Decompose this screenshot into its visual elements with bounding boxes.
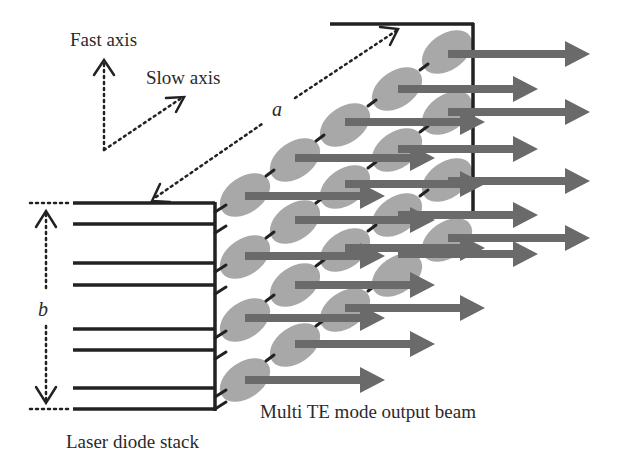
output-beam-caption: Multi TE mode output beam: [260, 402, 476, 421]
dimension-a-arrowhead-end-icon: [380, 27, 398, 45]
dimension-b: [30, 203, 70, 409]
slow-axis-line: [104, 99, 180, 150]
slow-axis-arrowhead-icon: [166, 97, 184, 112]
laser-stack-caption: Laser diode stack: [66, 432, 199, 451]
slow-axis-label: Slow axis: [146, 68, 220, 87]
dimension-b-label: b: [38, 299, 48, 319]
output-beam-arrows: [245, 41, 590, 393]
laser-diode-stack: [73, 202, 215, 411]
dimension-a-label: a: [272, 99, 282, 119]
fast-axis-label: Fast axis: [70, 30, 137, 49]
laser-diode-stack-diagram: [0, 0, 620, 470]
